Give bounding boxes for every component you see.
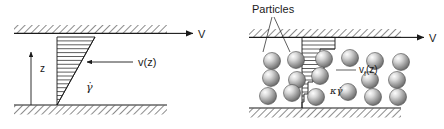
particle: [342, 50, 359, 67]
right-shear-rate-label: κγ̇: [329, 85, 343, 96]
left-top-plate: [14, 25, 167, 33]
left-z-axis-label: z: [40, 63, 45, 74]
particle: [263, 70, 280, 87]
particles-callout-label: Particles: [252, 3, 295, 15]
particle: [389, 72, 406, 89]
particle: [365, 89, 382, 106]
right-bottom-plate: [249, 108, 401, 118]
particle-group: [260, 50, 410, 106]
suspension-panel: Particles V: [249, 3, 437, 118]
particle: [393, 54, 410, 71]
left-bottom-plate: [14, 105, 167, 115]
particle: [284, 85, 301, 102]
right-top-plate: [249, 29, 401, 37]
particle: [308, 89, 325, 106]
particle: [264, 53, 281, 70]
particle: [312, 68, 329, 85]
left-velocity-profile: [57, 37, 95, 105]
left-velocity-profile-label: v(z): [138, 56, 156, 68]
right-wall-velocity-label: V: [429, 32, 437, 44]
pure-fluid-panel: V z: [14, 25, 206, 115]
particle: [260, 88, 277, 105]
particle: [390, 89, 407, 106]
left-wall-velocity-label: V: [198, 28, 206, 40]
particle: [288, 52, 305, 69]
vf-arg: (z): [366, 64, 378, 75]
left-shear-rate-label: γ̇: [86, 81, 93, 94]
shear-flow-diagram: V z: [0, 0, 444, 129]
figure-root: V z: [0, 0, 444, 129]
particle: [316, 51, 333, 68]
